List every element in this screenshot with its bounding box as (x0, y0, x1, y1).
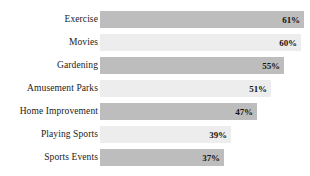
bar-value-label: 51% (249, 84, 267, 94)
category-label: Home Improvement (0, 106, 98, 117)
bar-track: 37% (100, 149, 224, 166)
bar-track: 47% (100, 103, 257, 120)
bar-row: Sports Events 37% (0, 149, 310, 166)
plot-area: Exercise 61% Movies 60% Gardening 55% (0, 0, 310, 176)
category-label: Movies (0, 37, 98, 48)
bar-track: 39% (100, 126, 231, 143)
bar-movies: 60% (100, 34, 301, 51)
category-label: Gardening (0, 60, 98, 71)
bar-home-improvement: 47% (100, 103, 257, 120)
bar-row: Exercise 61% (0, 11, 310, 28)
category-label: Playing Sports (0, 129, 98, 140)
bar-row: Amusement Parks 51% (0, 80, 310, 97)
bar-value-label: 55% (262, 61, 280, 71)
bar-value-label: 61% (282, 15, 300, 25)
bar-value-label: 60% (279, 38, 297, 48)
bar-sports-events: 37% (100, 149, 224, 166)
bar-chart: Exercise 61% Movies 60% Gardening 55% (0, 0, 310, 176)
bar-playing-sports: 39% (100, 126, 231, 143)
bar-track: 51% (100, 80, 271, 97)
bar-row: Movies 60% (0, 34, 310, 51)
bar-value-label: 39% (209, 130, 227, 140)
bar-row: Home Improvement 47% (0, 103, 310, 120)
bar-value-label: 47% (235, 107, 253, 117)
bar-value-label: 37% (202, 153, 220, 163)
bar-row: Playing Sports 39% (0, 126, 310, 143)
bar-gardening: 55% (100, 57, 284, 74)
category-label: Sports Events (0, 152, 98, 163)
bar-track: 55% (100, 57, 284, 74)
bar-track: 60% (100, 34, 301, 51)
category-label: Exercise (0, 14, 98, 25)
bar-track: 61% (100, 11, 304, 28)
category-label: Amusement Parks (0, 83, 98, 94)
bar-row: Gardening 55% (0, 57, 310, 74)
bar-exercise: 61% (100, 11, 304, 28)
bar-amusement-parks: 51% (100, 80, 271, 97)
